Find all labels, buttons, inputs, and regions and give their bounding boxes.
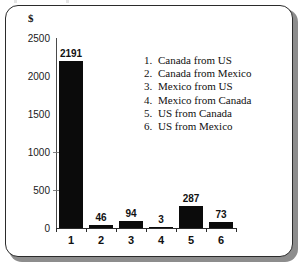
scan-artifact	[14, 0, 134, 4]
x-axis-tick-mark	[176, 228, 177, 232]
legend-item-key: 1.	[144, 54, 158, 67]
legend-item: 1.Canada from US	[144, 54, 251, 67]
bar-value-label: 3	[141, 214, 181, 225]
bar	[149, 227, 173, 229]
x-axis-tick-mark	[86, 228, 87, 232]
chart-figure: $ 05001000150020002500 123456 2191469432…	[0, 0, 302, 266]
legend-item-key: 3.	[144, 80, 158, 93]
legend-item-label: Canada from Mexico	[158, 67, 251, 79]
x-axis-tick-mark	[56, 228, 57, 232]
y-axis-tick-label: 2000	[6, 71, 50, 82]
legend-item-label: US from Canada	[158, 107, 232, 119]
y-axis-tick-label: 1500	[6, 109, 50, 120]
x-axis-tick-label: 1	[59, 234, 83, 246]
x-axis-tick-label: 4	[149, 234, 173, 246]
bar-value-label: 287	[171, 193, 211, 204]
y-axis-tick-label: 2500	[6, 33, 50, 44]
bar	[209, 222, 233, 228]
bar-value-label: 2191	[51, 48, 91, 59]
legend-item-key: 2.	[144, 67, 158, 80]
y-axis-tick-label: 0	[6, 223, 50, 234]
bar	[119, 221, 143, 228]
chart-legend: 1.Canada from US2.Canada from Mexico3.Me…	[144, 54, 251, 133]
legend-item-label: Mexico from US	[158, 80, 233, 92]
bar-value-label: 73	[201, 209, 241, 220]
bar	[89, 225, 113, 228]
y-axis-line	[56, 38, 57, 229]
x-axis-tick-label: 2	[89, 234, 113, 246]
y-axis-tick-label: 500	[6, 185, 50, 196]
legend-item-label: Mexico from Canada	[158, 94, 251, 106]
legend-item-key: 6.	[144, 120, 158, 133]
legend-item: 3.Mexico from US	[144, 80, 251, 93]
x-axis-tick-mark	[236, 228, 237, 232]
bar	[59, 61, 83, 228]
legend-item: 5.US from Canada	[144, 107, 251, 120]
x-axis-tick-label: 6	[209, 234, 233, 246]
x-axis-tick-mark	[116, 228, 117, 232]
x-axis-tick-mark	[146, 228, 147, 232]
legend-item-label: Canada from US	[158, 54, 232, 66]
legend-item: 6.US from Mexico	[144, 120, 251, 133]
x-axis-tick-label: 3	[119, 234, 143, 246]
y-axis-unit-label: $	[28, 12, 34, 24]
bar	[179, 206, 203, 228]
legend-item-label: US from Mexico	[158, 120, 233, 132]
y-axis-tick-label: 1000	[6, 147, 50, 158]
x-axis-tick-mark	[206, 228, 207, 232]
x-axis-tick-label: 5	[179, 234, 203, 246]
legend-item-key: 4.	[144, 94, 158, 107]
legend-item: 2.Canada from Mexico	[144, 67, 251, 80]
legend-item-key: 5.	[144, 107, 158, 120]
legend-item: 4.Mexico from Canada	[144, 94, 251, 107]
